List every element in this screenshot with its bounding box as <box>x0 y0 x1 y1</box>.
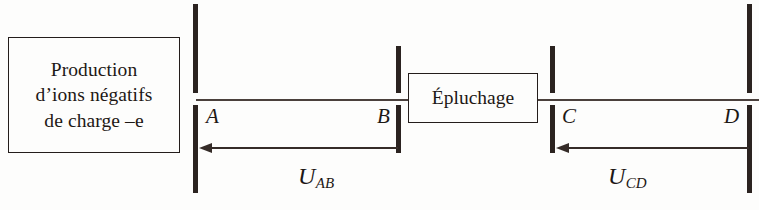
voltage-label-ab-subscript: AB <box>316 175 334 191</box>
voltage-label-cd-base: U <box>608 163 625 189</box>
ion-source-box: Production d’ions négatifs de charge –e <box>8 37 180 153</box>
stripper-box: Épluchage <box>408 73 538 123</box>
voltage-arrow-cd-line <box>567 147 749 149</box>
electrode-plate-a-lower <box>193 105 198 193</box>
electrode-plate-c-lower <box>550 105 555 153</box>
voltage-label-ab: UAB <box>298 164 334 191</box>
electrode-plate-d-lower <box>747 105 752 193</box>
electrode-plate-d-upper <box>747 4 752 93</box>
point-label-b: B <box>377 106 390 127</box>
source-text-line-2: d’ions négatifs <box>36 82 153 107</box>
beam-axis-segment-ab <box>196 99 408 101</box>
stripper-label: Épluchage <box>432 87 514 109</box>
electrode-plate-b-upper <box>396 46 401 93</box>
voltage-label-cd: UCD <box>608 164 647 191</box>
electrode-plate-c-upper <box>550 46 555 93</box>
point-label-c: C <box>562 106 576 127</box>
diagram-canvas: Production d’ions négatifs de charge –e … <box>0 0 759 210</box>
voltage-label-ab-base: U <box>298 163 315 189</box>
point-label-d: D <box>724 106 739 127</box>
point-label-a: A <box>206 106 219 127</box>
voltage-arrow-ab-line <box>210 147 398 149</box>
source-text-line-3: de charge –e <box>44 108 143 133</box>
electrode-plate-b-lower <box>396 105 401 153</box>
electrode-plate-a-upper <box>193 4 198 93</box>
voltage-arrow-ab-head <box>199 143 212 153</box>
voltage-arrow-cd-head <box>556 143 569 153</box>
beam-axis-segment-cd <box>538 99 759 101</box>
source-text-line-1: Production <box>51 57 138 82</box>
voltage-label-cd-subscript: CD <box>626 175 647 191</box>
